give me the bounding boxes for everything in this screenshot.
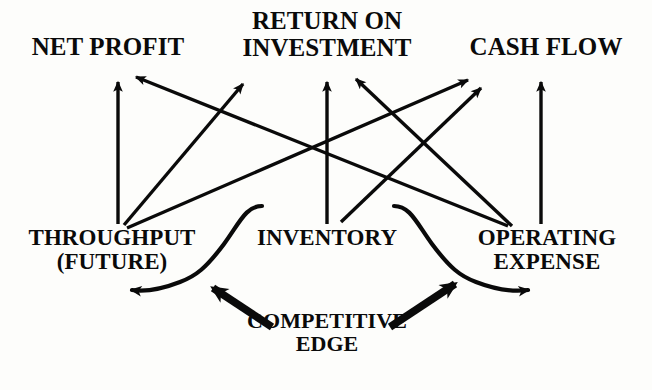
node-label-competitive-edge: COMPETITIVE EDGE — [232, 309, 422, 356]
node-label-throughput: THROUGHPUT (FUTURE) — [6, 226, 218, 275]
node-label-cash-flow: CASH FLOW — [468, 34, 624, 61]
edge-throughput-to-cash-flow — [127, 80, 468, 228]
node-label-inventory: INVENTORY — [234, 226, 420, 250]
node-label-net-profit: NET PROFIT — [30, 34, 186, 61]
node-label-return-on-investment: RETURN ON INVESTMENT — [227, 8, 427, 61]
edge-inventory-to-cash-flow — [341, 88, 481, 222]
node-label-operating-expense: OPERATING EXPENSE — [452, 226, 642, 275]
diagram-canvas: NET PROFIT RETURN ON INVESTMENT CASH FLO… — [0, 0, 652, 390]
edge-operating-expense-to-roi — [356, 79, 512, 226]
edge-operating-expense-to-net-profit — [136, 77, 508, 226]
